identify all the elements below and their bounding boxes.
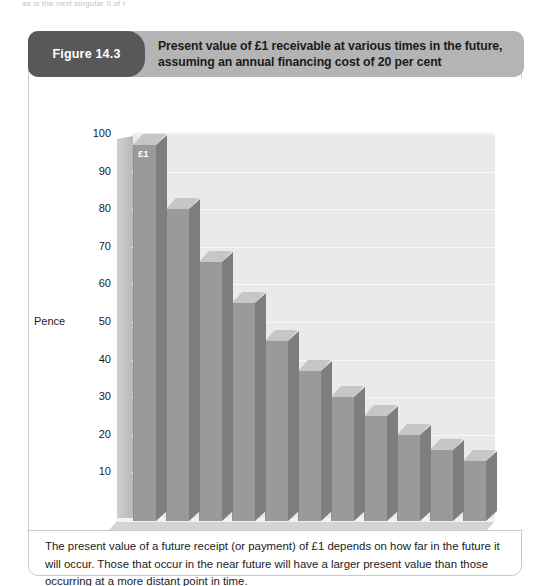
gridline (132, 134, 495, 135)
y-axis-tick-label: 40 (77, 353, 111, 365)
chart-plot-area: £1 102030405060708090100 012345678910 Pe… (29, 78, 523, 530)
chart-bar (199, 251, 233, 521)
chart-bar (364, 405, 398, 521)
bar-side-face (222, 252, 233, 521)
bar-value-annotation: £1 (138, 148, 149, 159)
chart-y-axis-label: Pence (34, 315, 65, 327)
bar-side-face (321, 361, 332, 521)
bar-side-face (420, 425, 431, 521)
gridline (132, 172, 495, 173)
bar-front-face (463, 461, 486, 521)
bar-front-face (265, 341, 288, 521)
y-axis-tick-label: 70 (77, 240, 111, 252)
bar-front-face (232, 303, 255, 521)
bar-side-face (156, 135, 167, 521)
bar-side-face (255, 293, 266, 521)
bar-front-face (199, 262, 222, 521)
y-axis-tick-label: 100 (77, 127, 111, 139)
chart-bar (133, 134, 167, 521)
bar-front-face (133, 145, 156, 521)
chart-floor (102, 521, 495, 530)
cropped-page-text: as is the next singular 0 of r (22, 0, 222, 9)
y-axis-tick-label: 10 (77, 465, 111, 477)
figure-header-band: Figure 14.3 Present value of £1 receivab… (28, 31, 524, 77)
y-axis-tick-label: 80 (77, 202, 111, 214)
figure-title: Present value of £1 receivable at variou… (158, 38, 513, 70)
figure-card: Figure 14.3 Present value of £1 receivab… (28, 31, 522, 576)
bar-front-face (430, 450, 453, 521)
bar-front-face (331, 397, 354, 521)
chart-left-wall (117, 136, 133, 524)
chart-bar (430, 439, 464, 521)
chart-bar (298, 360, 332, 521)
bar-side-face (288, 331, 299, 521)
bar-side-face (486, 451, 497, 521)
bar-side-face (189, 199, 200, 521)
chart-bar (232, 292, 266, 521)
caption-divider (29, 530, 523, 531)
chart-bar (463, 450, 497, 521)
y-axis-tick-label: 90 (77, 165, 111, 177)
chart-bar (166, 198, 200, 521)
figure-caption: The present value of a future receipt (o… (45, 538, 509, 586)
y-axis-tick-label: 30 (77, 390, 111, 402)
y-axis-tick-label: 60 (77, 277, 111, 289)
bar-front-face (298, 371, 321, 521)
y-axis-tick-label: 20 (77, 428, 111, 440)
bar-front-face (364, 416, 387, 521)
bar-side-face (453, 440, 464, 521)
figure-number-badge: Figure 14.3 (28, 31, 145, 77)
bar-front-face (166, 209, 189, 521)
bar-front-face (397, 435, 420, 521)
bar-side-face (387, 406, 398, 521)
chart-bar (397, 424, 431, 521)
chart-bar (265, 330, 299, 521)
page-root: as is the next singular 0 of r Figure 14… (0, 0, 548, 586)
chart-bar (331, 386, 365, 521)
y-axis-tick-label: 50 (77, 315, 111, 327)
bar-side-face (354, 387, 365, 521)
